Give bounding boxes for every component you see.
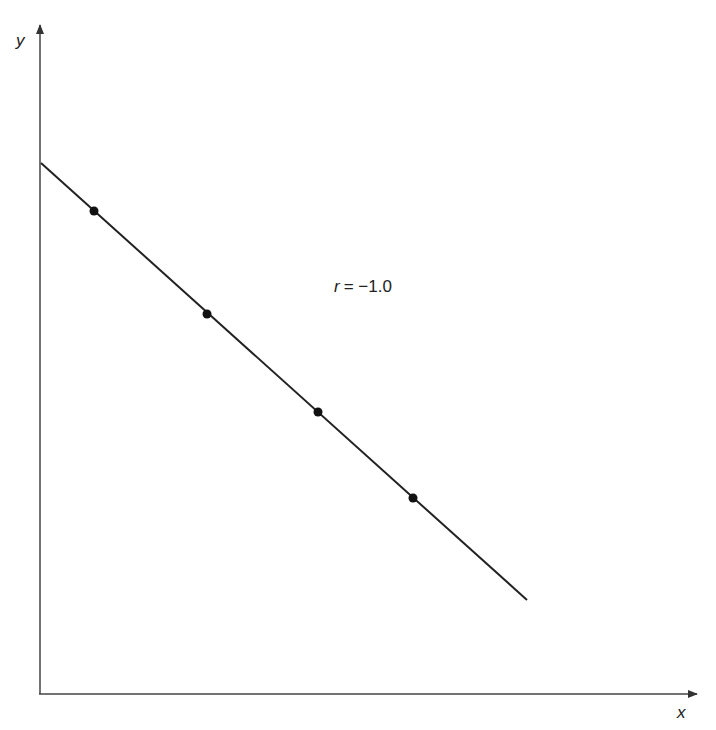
data-point [409,494,418,503]
data-point [203,310,212,319]
annotation-r: r [334,277,341,296]
correlation-annotation: r= −1.0 [334,277,392,296]
data-point [314,408,323,417]
y-axis-label: y [15,31,26,50]
scatter-chart: y x r= −1.0 [0,0,716,730]
x-axis-label: x [676,703,686,722]
data-point [90,207,99,216]
annotation-value: = −1.0 [344,277,392,296]
regression-line [41,163,527,600]
